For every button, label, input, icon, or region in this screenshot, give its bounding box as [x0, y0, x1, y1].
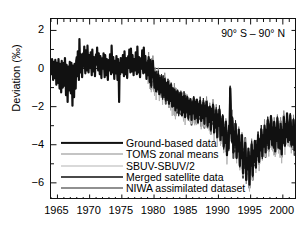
- legend-item: Ground-based data: [61, 137, 245, 148]
- y-tick-label: 0: [24, 62, 44, 74]
- ozone-deviation-chart: Deviation (‰) 20−2−4−6 19651970197519801…: [0, 0, 308, 240]
- x-tick-label: 1975: [109, 204, 133, 216]
- x-tick-label: 1980: [141, 204, 165, 216]
- y-axis-label: Deviation (‰): [10, 28, 22, 128]
- legend-item: SBUV-SBUV/2: [61, 160, 245, 171]
- legend-line-swatch: [61, 148, 123, 159]
- x-tick-label: 1965: [44, 204, 68, 216]
- y-tick-label: −2: [24, 100, 44, 112]
- x-tick-label: 1990: [205, 204, 229, 216]
- legend-label: NIWA assimilated dataset: [123, 182, 245, 194]
- region-annotation: 90° S – 90° N: [221, 27, 285, 39]
- legend-item: Merged satellite data: [61, 171, 245, 182]
- legend-line-swatch: [61, 137, 123, 148]
- legend-line-swatch: [61, 183, 123, 194]
- y-tick-label: 2: [24, 23, 44, 35]
- plot-area: 90° S – 90° N Ground-based dataTOMS zona…: [50, 18, 296, 199]
- x-axis-tick-labels: 19651970197519801985199019952000: [0, 204, 308, 222]
- x-tick-label: 1985: [173, 204, 197, 216]
- y-tick-label: −4: [24, 138, 44, 150]
- legend-label: Ground-based data: [123, 137, 216, 149]
- x-tick-label: 1995: [237, 204, 261, 216]
- legend-label: SBUV-SBUV/2: [123, 160, 195, 172]
- y-tick-label: −6: [24, 176, 44, 188]
- x-tick-label: 1970: [76, 204, 100, 216]
- legend-line-swatch: [61, 171, 123, 182]
- legend-item: NIWA assimilated dataset: [61, 183, 245, 194]
- legend-label: Merged satellite data: [123, 171, 223, 183]
- legend: Ground-based dataTOMS zonal meansSBUV-SB…: [61, 137, 245, 194]
- legend-item: TOMS zonal means: [61, 148, 245, 159]
- x-tick-label: 2000: [270, 204, 294, 216]
- legend-line-swatch: [61, 160, 123, 171]
- legend-label: TOMS zonal means: [123, 148, 219, 160]
